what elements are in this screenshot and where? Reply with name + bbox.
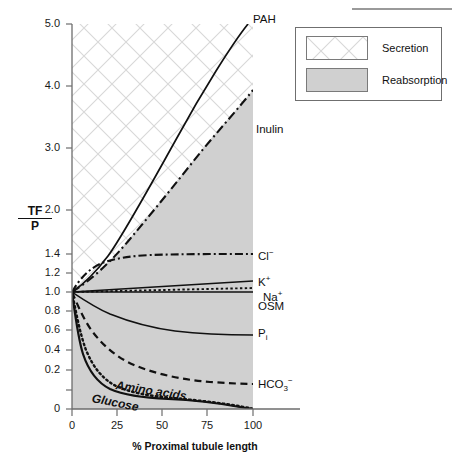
curve-label-hco3-charge: − xyxy=(288,376,293,385)
legend-item-reabsorption: Reabsorption xyxy=(306,68,447,92)
y-tick-label-1-0: 1.0 xyxy=(26,285,60,297)
curve-label-cl: Cl− xyxy=(258,248,274,262)
y-tick-label-1-4: 1.4 xyxy=(26,247,60,259)
y-tick-label-5-0: 5.0 xyxy=(26,17,60,29)
x-tick-label-75: 75 xyxy=(192,419,222,431)
y-axis-title-numerator: TF xyxy=(18,205,52,219)
y-axis-title: TF P xyxy=(18,205,52,232)
y-tick-label-4-0: 4.0 xyxy=(26,79,60,91)
curve-label-k-charge: + xyxy=(266,274,271,283)
curve-label-hco3-text: HCO xyxy=(258,378,284,390)
y-tick-label-3-0: 3.0 xyxy=(26,141,60,153)
legend-swatch-reabsorption xyxy=(306,68,368,92)
curve-label-pi: Pi xyxy=(258,327,267,339)
curve-label-cl-text: Cl xyxy=(258,250,269,262)
curve-label-osm: OSM xyxy=(258,300,284,312)
y-tick-label-0-2: 0.2 xyxy=(26,363,60,375)
curve-label-na-charge: + xyxy=(278,289,283,298)
legend-swatch-secretion xyxy=(306,36,368,60)
x-tick-label-0: 0 xyxy=(57,419,87,431)
x-axis-title: % Proximal tubule length xyxy=(80,440,310,452)
y-tick-label-0-6: 0.6 xyxy=(26,323,60,335)
x-tick-label-100: 100 xyxy=(238,419,268,431)
curve-label-pi-text: P xyxy=(258,327,266,339)
curve-label-hco3-sub: 3 xyxy=(284,384,288,393)
y-tick-label-0: 0 xyxy=(26,402,60,414)
y-tick-label-0-4: 0.4 xyxy=(26,343,60,355)
y-tick-marks xyxy=(66,24,72,409)
curve-label-cl-charge: − xyxy=(269,248,274,257)
x-tick-marks xyxy=(72,409,253,416)
curve-label-pah: PAH xyxy=(253,13,276,25)
curve-label-k: K+ xyxy=(258,274,270,288)
y-axis-title-denominator: P xyxy=(18,219,52,233)
legend-label-secretion: Secretion xyxy=(382,42,428,54)
y-tick-label-0-8: 0.8 xyxy=(26,304,60,316)
legend-label-reabsorption: Reabsorption xyxy=(382,74,447,86)
legend: Secretion Reabsorption xyxy=(295,27,442,101)
x-tick-label-50: 50 xyxy=(147,419,177,431)
curve-label-k-text: K xyxy=(258,276,266,288)
x-tick-label-25: 25 xyxy=(102,419,132,431)
legend-item-secretion: Secretion xyxy=(306,36,428,60)
y-tick-label-1-2: 1.2 xyxy=(26,266,60,278)
curve-label-inulin: Inulin xyxy=(256,123,284,135)
figure-root: 5.0 4.0 3.0 2.0 1.4 1.2 1.0 0.8 0.6 0.4 … xyxy=(0,0,457,466)
curve-label-hco3: HCO3− xyxy=(258,376,293,390)
